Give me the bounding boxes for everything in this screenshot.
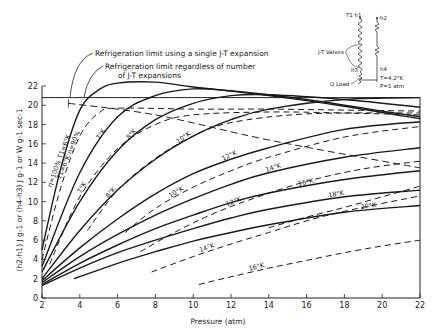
- y-tick-label: 6: [33, 236, 38, 245]
- y-tick-label: 14: [28, 159, 38, 168]
- x-tick-label: 18: [339, 301, 349, 310]
- svg-text:J-T Valves: J-T Valves: [317, 49, 344, 56]
- curve-label: 12°K: [220, 148, 238, 162]
- x-tick-label: 14: [264, 301, 274, 310]
- svg-text:P=1 atm: P=1 atm: [380, 83, 404, 89]
- svg-text:h3: h3: [351, 67, 358, 73]
- annotation-arrow-multi: [84, 66, 103, 97]
- chart: 2468101214161820220246810121416182022 η=…: [0, 0, 442, 332]
- curve-label: 7°K: [76, 180, 89, 195]
- jt-valve-arcs: [346, 44, 360, 68]
- y-tick-label: 20: [28, 101, 38, 110]
- y-tick-label: 2: [33, 275, 38, 284]
- curve-label: 8°K: [104, 185, 118, 200]
- curve-label: 7°K: [94, 127, 107, 142]
- x-tick-label: 12: [226, 301, 236, 310]
- series-14-k: [42, 148, 420, 283]
- coil-left: [358, 18, 362, 72]
- curve-label: 8°K: [125, 127, 139, 142]
- curve-label: 10°K: [175, 129, 193, 145]
- series-10-k: [42, 98, 420, 279]
- y-tick-label: 18: [28, 121, 38, 130]
- svg-text:h4: h4: [380, 66, 387, 72]
- curve-label: 16°K: [248, 261, 266, 273]
- y-axis-label: (h2-h1) J g-1 or (h4-h3) J g-1 or W g-1 …: [15, 108, 24, 271]
- curve-label: 12°K: [225, 195, 243, 208]
- y-tick-label: 16: [28, 140, 38, 149]
- x-tick-label: 22: [415, 301, 425, 310]
- x-tick-label: 2: [39, 301, 44, 310]
- svg-text:h2: h2: [380, 15, 387, 21]
- y-tick-label: 22: [28, 82, 38, 91]
- q-load-arrow: [351, 78, 359, 84]
- series-16-k: [42, 171, 420, 285]
- x-tick-label: 16: [302, 301, 312, 310]
- y-tick-label: 10: [28, 198, 38, 207]
- x-axis-label: Pressure (atm): [190, 317, 245, 326]
- connector: [360, 78, 377, 80]
- y-tick-label: 4: [33, 255, 38, 264]
- coil-right: [375, 18, 379, 82]
- axes: 2468101214161820220246810121416182022: [28, 82, 425, 310]
- y-tick-label: 0: [33, 294, 38, 303]
- series-20-k: [74, 206, 420, 279]
- x-tick-label: 6: [115, 301, 120, 310]
- annotation-single-jt: Refrigeration limit using a single J-T e…: [95, 49, 269, 58]
- annotation-arrow-single: [70, 53, 93, 97]
- curve-label: 18°K: [328, 189, 346, 200]
- svg-text:T=4.2°K: T=4.2°K: [379, 75, 403, 81]
- series--100-t1-6-k: [42, 82, 420, 250]
- annotation-multi-jt-1: Refrigeration limit regardless of number: [105, 62, 256, 71]
- y-tick-label: 12: [28, 178, 38, 187]
- series-14-k-dashed: [152, 196, 420, 272]
- curve-label: 14°K: [198, 241, 216, 254]
- series-16-k-dashed: [199, 240, 420, 284]
- curve-label: 16°K: [297, 177, 315, 188]
- x-tick-label: 4: [77, 301, 82, 310]
- x-tick-label: 10: [188, 301, 198, 310]
- inset-diagram: T1 h1 h2 J-T Valves h3 h4 Q Load T=4.2°K…: [317, 12, 404, 89]
- x-tick-label: 8: [153, 301, 158, 310]
- annotation-multi-jt-2: of J-T expansions: [118, 71, 181, 80]
- svg-text:Q Load: Q Load: [330, 81, 349, 87]
- y-tick-label: 8: [33, 217, 38, 226]
- series-10-k-dashed: [125, 127, 420, 233]
- curve-label: 10°K: [167, 184, 185, 199]
- curves: [42, 82, 420, 286]
- svg-text:T1 h1: T1 h1: [345, 12, 362, 18]
- x-tick-label: 20: [377, 301, 387, 310]
